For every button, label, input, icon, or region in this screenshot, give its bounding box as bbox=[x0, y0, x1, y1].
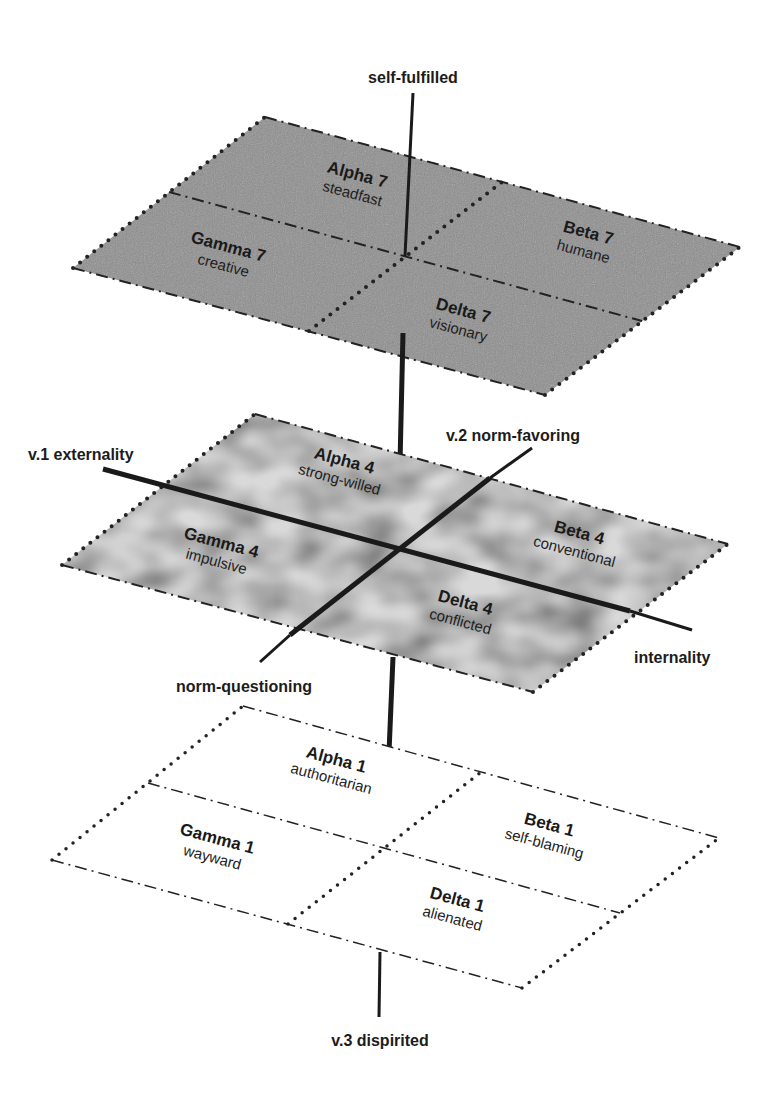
axis-v2-questioning-tail bbox=[260, 635, 290, 662]
axis-label-norm-favoring: v.2 norm-favoring bbox=[446, 427, 580, 444]
axis-label-self-fulfilled: self-fulfilled bbox=[368, 69, 458, 86]
axis-label-internality: internality bbox=[634, 649, 711, 666]
axis-v3-bottom-segment bbox=[379, 952, 380, 1017]
axis-v1-internality-tail bbox=[630, 611, 692, 630]
axis-v2-favoring-tail bbox=[490, 448, 532, 478]
diagram-canvas: Alpha 7 steadfast Beta 7 humane Gamma 7 … bbox=[0, 0, 782, 1110]
plane-1-fill bbox=[52, 706, 719, 988]
plane-level-1: Alpha 1 authoritarian Beta 1 self-blamin… bbox=[52, 706, 719, 988]
axis-label-dispirited: v.3 dispirited bbox=[331, 1032, 429, 1049]
axis-label-externality: v.1 externality bbox=[28, 446, 134, 463]
plane-level-4: Alpha 4 strong-willed Beta 4 conventiona… bbox=[62, 414, 728, 692]
axis-label-norm-questioning: norm-questioning bbox=[176, 678, 312, 695]
